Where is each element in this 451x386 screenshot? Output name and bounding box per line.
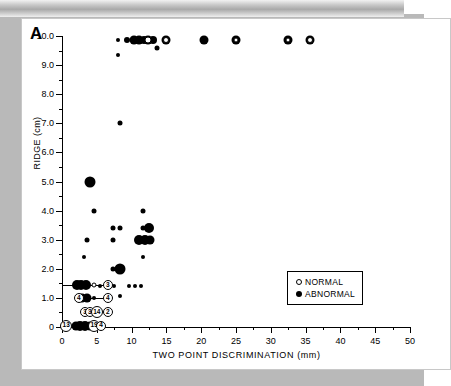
x-tick-label: 10 (127, 336, 137, 346)
data-point-abnormal (118, 294, 122, 298)
y-tick-label: 8.0 (41, 89, 54, 99)
x-tick-major (236, 327, 237, 333)
filled-circle-icon (293, 291, 305, 297)
y-tick-label: 4.0 (41, 206, 54, 216)
data-point-abnormal (117, 226, 122, 231)
x-tick-label: 40 (335, 336, 345, 346)
data-point-abnormal (127, 284, 131, 288)
x-tick-minor (114, 327, 115, 330)
x-tick-label: 20 (196, 336, 206, 346)
data-point-abnormal (98, 284, 102, 288)
x-tick-major (201, 327, 202, 333)
data-point-normal (234, 38, 239, 43)
legend-item-abnormal: ABNORMAL (293, 288, 355, 300)
count-annotation: 4 (96, 321, 106, 331)
x-tick-major (132, 327, 133, 333)
x-tick-major (410, 327, 411, 333)
count-annotation: 3 (103, 280, 113, 290)
data-point-abnormal (141, 255, 145, 259)
data-point-abnormal (110, 237, 115, 242)
x-tick-major (166, 327, 167, 333)
x-tick-minor (358, 327, 359, 330)
data-point-abnormal (116, 53, 120, 57)
data-point-normal (92, 282, 97, 287)
scatter-figure: A 01.02.03.04.05.06.07.08.09.010.0 RIDGE… (21, 18, 449, 368)
data-point-normal (145, 37, 152, 44)
data-point-abnormal (114, 263, 125, 274)
y-tick-label: 6.0 (41, 147, 54, 157)
x-tick-label: 0 (59, 336, 64, 346)
data-point-abnormal (110, 226, 115, 231)
data-point-abnormal (84, 176, 95, 187)
data-point-abnormal (82, 255, 86, 259)
x-tick-label: 15 (161, 336, 171, 346)
open-circle-icon (293, 279, 305, 285)
count-annotation: 4 (74, 293, 84, 303)
data-point-abnormal (141, 208, 146, 213)
data-point-abnormal (154, 45, 159, 50)
y-axis-title: RIDGE (cm) (32, 83, 42, 203)
x-tick-label: 30 (266, 336, 276, 346)
legend: NORMAL ABNORMAL (287, 271, 363, 305)
data-point-abnormal (144, 223, 154, 233)
data-point-normal (307, 37, 313, 43)
y-tick-label: 7.0 (41, 118, 54, 128)
x-tick-major (306, 327, 307, 333)
count-annotation: 14 (91, 306, 103, 318)
x-axis-title: TWO POINT DISCRIMINATION (mm) (62, 350, 411, 360)
x-tick-minor (184, 327, 185, 330)
data-point-normal (286, 38, 291, 43)
x-tick-minor (219, 327, 220, 330)
y-tick-label: 0 (49, 322, 54, 332)
scanned-page-top-band (0, 0, 404, 17)
x-tick-minor (323, 327, 324, 330)
y-tick-label: 1.0 (41, 293, 54, 303)
data-point-abnormal (145, 235, 154, 244)
x-tick-major (340, 327, 341, 333)
data-point-abnormal (116, 38, 120, 42)
data-point-abnormal (133, 284, 137, 288)
y-tick-label: 2.0 (41, 264, 54, 274)
y-tick-label: 5.0 (41, 177, 54, 187)
data-point-abnormal (92, 296, 96, 300)
x-tick-label: 25 (231, 336, 241, 346)
x-tick-minor (393, 327, 394, 330)
x-tick-major (271, 327, 272, 333)
legend-label-normal: NORMAL (305, 277, 343, 287)
x-tick-label: 35 (301, 336, 311, 346)
y-tick-label: 10.0 (36, 31, 54, 41)
x-tick-minor (288, 327, 289, 330)
x-tick-major (375, 327, 376, 333)
data-point-normal (163, 37, 169, 43)
data-point-abnormal (92, 208, 97, 213)
count-annotation: 4 (103, 293, 113, 303)
data-point-abnormal (81, 280, 91, 290)
legend-label-abnormal: ABNORMAL (305, 289, 355, 299)
x-tick-label: 50 (405, 336, 415, 346)
legend-item-normal: NORMAL (293, 276, 355, 288)
data-point-abnormal (199, 36, 208, 45)
y-tick-label: 9.0 (41, 60, 54, 70)
x-tick-label: 45 (370, 336, 380, 346)
x-tick-label: 5 (94, 336, 99, 346)
y-tick-label: 3.0 (41, 235, 54, 245)
data-point-abnormal (139, 284, 143, 288)
count-annotation: 13 (60, 320, 72, 332)
x-tick-minor (149, 327, 150, 330)
data-point-abnormal (83, 293, 92, 302)
count-annotation: 2 (103, 307, 113, 317)
data-point-abnormal (117, 121, 122, 126)
data-point-abnormal (85, 237, 90, 242)
x-tick-minor (253, 327, 254, 330)
